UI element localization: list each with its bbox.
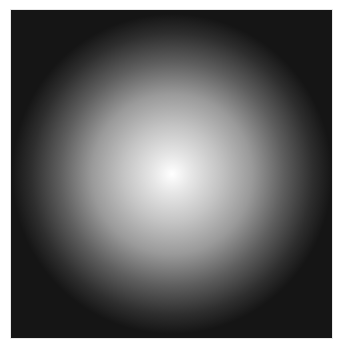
radial-glow	[11, 10, 332, 338]
gradient-image	[11, 10, 332, 338]
